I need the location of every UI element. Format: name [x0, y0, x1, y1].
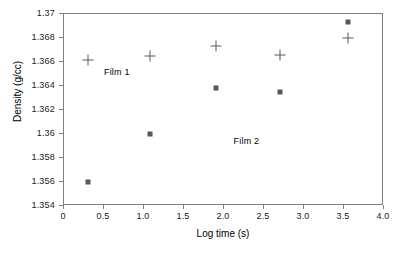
y-axis-tick-label: 1.37	[37, 8, 55, 18]
x-axis-tick	[143, 205, 144, 209]
data-point-film-1	[83, 54, 94, 65]
series-label-film-2: Film 2	[234, 136, 260, 146]
y-axis-tick-label: 1.366	[31, 56, 55, 66]
x-axis-title: Log time (s)	[63, 228, 383, 239]
x-axis-tick-label: 3.5	[336, 211, 349, 221]
data-point-film-2	[86, 180, 91, 185]
data-point-film-1	[211, 41, 222, 52]
x-axis-tick	[303, 205, 304, 209]
x-axis-tick-label: 2.5	[256, 211, 269, 221]
plot-area: Film 1Film 2	[63, 13, 383, 205]
series-label-film-1: Film 1	[104, 67, 130, 77]
x-axis-tick-label: 3.0	[296, 211, 309, 221]
density-vs-log-time-chart: 1.3541.3561.3581.361.3621.3641.3661.3681…	[0, 0, 405, 256]
data-point-film-2	[346, 20, 351, 25]
y-axis-tick-label: 1.36	[37, 128, 55, 138]
data-point-film-1	[343, 33, 354, 44]
y-axis-tick-label: 1.356	[31, 176, 55, 186]
y-axis-tick-label: 1.358	[31, 152, 55, 162]
data-point-film-2	[278, 90, 283, 95]
y-axis-title: Density (g/cc)	[12, 32, 23, 152]
data-point-film-1	[275, 49, 286, 60]
x-axis-tick-label: 2.0	[216, 211, 229, 221]
x-axis-tick	[103, 205, 104, 209]
x-axis-tick-label: 1.0	[136, 211, 149, 221]
y-axis-tick-label: 1.354	[31, 200, 55, 210]
x-axis-tick	[223, 205, 224, 209]
data-point-film-1	[144, 51, 155, 62]
data-point-film-2	[147, 132, 152, 137]
y-axis-ticks: 1.3541.3561.3581.361.3621.3641.3661.3681…	[0, 13, 63, 205]
x-axis-tick-label: 1.5	[176, 211, 189, 221]
x-axis-tick-label: 0.5	[96, 211, 109, 221]
x-axis-tick	[183, 205, 184, 209]
data-point-film-2	[214, 86, 219, 91]
x-axis-tick-label: 0	[60, 211, 65, 221]
x-axis-tick	[263, 205, 264, 209]
x-axis-tick	[63, 205, 64, 209]
x-axis-tick-label: 4.0	[376, 211, 389, 221]
y-axis-tick-label: 1.364	[31, 80, 55, 90]
x-axis-tick	[383, 205, 384, 209]
y-axis-tick-label: 1.368	[31, 32, 55, 42]
y-axis-tick-label: 1.362	[31, 104, 55, 114]
x-axis-tick	[343, 205, 344, 209]
